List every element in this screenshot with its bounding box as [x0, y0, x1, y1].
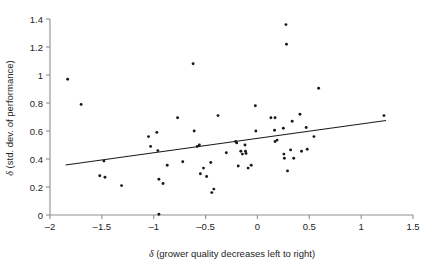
data-point: [162, 182, 165, 185]
data-point: [306, 148, 309, 151]
axis-lines: [50, 19, 413, 215]
data-point: [244, 144, 247, 147]
data-point: [199, 172, 202, 175]
data-point: [98, 174, 101, 177]
data-point: [300, 150, 303, 153]
data-point: [155, 131, 158, 134]
data-point: [313, 135, 316, 138]
x-tick-label: 1: [358, 221, 363, 232]
data-point: [254, 104, 257, 107]
plot-canvas: δ (std. dev. of performance) δ (grower q…: [0, 0, 438, 269]
data-point: [317, 87, 320, 90]
data-point: [291, 120, 294, 123]
x-tick-label: –1.5: [93, 221, 112, 232]
data-point: [209, 161, 212, 164]
y-tick-label: 0.4: [30, 154, 43, 165]
y-tick-label: 0.6: [30, 126, 43, 137]
data-point: [192, 62, 195, 65]
data-point: [147, 135, 150, 138]
data-point: [176, 116, 179, 119]
data-point: [269, 116, 272, 119]
y-axis-title: δ (std. dev. of performance): [4, 60, 15, 175]
data-point: [245, 152, 248, 155]
y-axis-ticks: 00.20.40.60.811.21.4: [30, 14, 50, 221]
data-point: [210, 191, 213, 194]
data-point: [166, 164, 169, 167]
data-point: [66, 78, 69, 81]
data-point: [104, 176, 107, 179]
data-point: [276, 139, 279, 142]
x-tick-label: –1: [148, 221, 159, 232]
data-point: [285, 43, 288, 46]
y-axis-title-text: δ (std. dev. of performance): [4, 60, 15, 175]
data-point: [181, 160, 184, 163]
data-point: [193, 130, 196, 133]
data-point: [212, 188, 215, 191]
y-tick-label: 0.2: [30, 182, 43, 193]
x-axis-ticks: –2–1.5–1–0.500.511.5: [45, 215, 420, 232]
data-point: [299, 113, 302, 116]
x-tick-label: –2: [45, 221, 56, 232]
data-point: [157, 213, 160, 216]
data-point: [286, 169, 289, 172]
x-tick-label: 0.5: [303, 221, 316, 232]
x-axis-title-text: δ (grower quality decreases left to righ…: [149, 248, 315, 259]
data-point: [202, 167, 205, 170]
data-point: [282, 127, 285, 130]
y-tick-label: 0: [38, 210, 43, 221]
data-point: [217, 114, 220, 117]
y-tick-label: 0.8: [30, 98, 43, 109]
data-point: [80, 103, 83, 106]
data-point: [157, 178, 160, 181]
y-tick-label: 1.4: [30, 14, 43, 25]
data-point: [305, 126, 308, 129]
data-point: [149, 145, 152, 148]
data-point: [120, 184, 123, 187]
data-point: [285, 23, 288, 26]
x-tick-label: 0: [255, 221, 260, 232]
regression-line: [66, 121, 386, 166]
data-point: [273, 129, 276, 132]
scatter-plot-figure: δ (std. dev. of performance) δ (grower q…: [0, 0, 438, 269]
data-point: [274, 116, 277, 119]
data-point: [225, 151, 228, 154]
data-point: [241, 153, 244, 156]
trend-line: [66, 121, 386, 166]
data-point: [254, 130, 257, 133]
data-point: [247, 167, 250, 170]
data-point: [383, 114, 386, 117]
data-points: [66, 23, 385, 216]
x-tick-label: 1.5: [406, 221, 419, 232]
data-point: [283, 157, 286, 160]
data-point: [282, 153, 285, 156]
data-point: [237, 165, 240, 168]
data-point: [250, 164, 253, 167]
data-point: [205, 175, 208, 178]
data-point: [239, 150, 242, 153]
x-tick-label: –0.5: [196, 221, 215, 232]
x-axis-title: δ (grower quality decreases left to righ…: [149, 248, 315, 259]
data-point: [289, 148, 292, 151]
y-tick-label: 1.2: [30, 42, 43, 53]
y-tick-label: 1: [38, 70, 43, 81]
data-point: [292, 157, 295, 160]
